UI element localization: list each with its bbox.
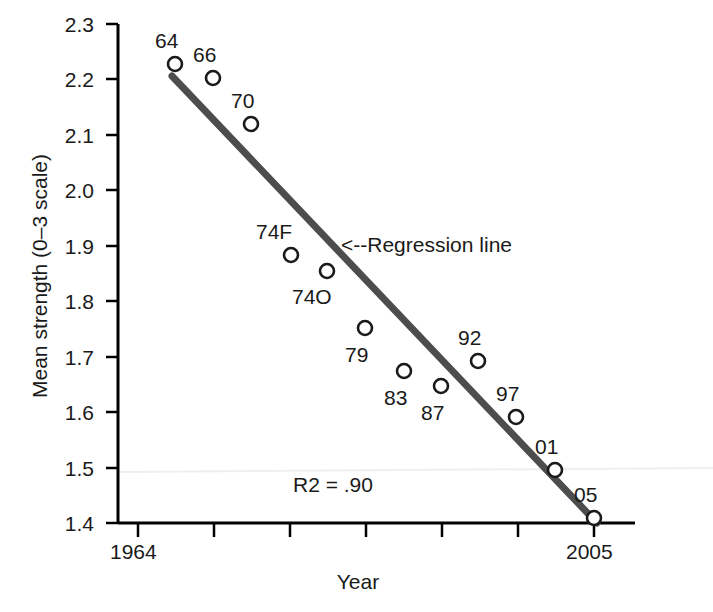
data-point-marker [206, 71, 220, 85]
y-tick-label-2-2: 2.2 [34, 69, 94, 90]
y-tick-label-2-3: 2.3 [34, 14, 94, 35]
plot-canvas [0, 0, 713, 612]
point-label-74F: 74F [256, 221, 292, 242]
data-point-marker [320, 264, 334, 278]
data-point-marker [284, 248, 298, 262]
point-label-87: 87 [421, 402, 444, 423]
y-tick-label-1-4: 1.4 [34, 513, 94, 534]
scan-artifact-line [118, 468, 713, 472]
data-point-marker [509, 410, 523, 424]
point-label-05: 05 [574, 484, 597, 505]
point-label-83: 83 [384, 387, 407, 408]
data-point-marker [587, 511, 601, 525]
data-point-marker [168, 57, 182, 71]
x-tick-label-1964: 1964 [110, 541, 157, 562]
point-label-97: 97 [496, 383, 519, 404]
data-point-marker [434, 379, 448, 393]
x-axis-ticks [138, 523, 594, 537]
x-tick-label-2005: 2005 [566, 541, 613, 562]
point-label-92: 92 [458, 327, 481, 348]
point-label-01: 01 [535, 436, 558, 457]
x-axis-title: Year [118, 570, 598, 594]
regression-line-callout: <--Regression line [341, 234, 512, 255]
y-axis-title: Mean strength (0–3 scale) [28, 96, 52, 456]
point-label-66: 66 [193, 44, 216, 65]
regression-line [172, 76, 597, 523]
data-point-marker [244, 117, 258, 131]
scatter-chart-figure: 2.3 2.2 2.1 2.0 1.9 1.8 1.7 1.6 1.5 1.4 … [0, 0, 713, 612]
y-tick-label-1-5: 1.5 [34, 458, 94, 479]
data-point-marker [358, 321, 372, 335]
point-label-79: 79 [345, 344, 368, 365]
data-point-marker [471, 354, 485, 368]
data-point-marker [397, 364, 411, 378]
y-axis-ticks [106, 24, 118, 523]
point-label-70: 70 [231, 90, 254, 111]
point-label-74O: 74O [292, 286, 332, 307]
point-label-64: 64 [155, 30, 178, 51]
r-squared-annotation: R2 = .90 [293, 474, 373, 495]
data-point-marker [548, 463, 562, 477]
